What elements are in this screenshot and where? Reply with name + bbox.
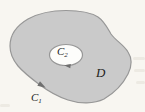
paper-artifact <box>136 81 145 84</box>
region-label: D <box>96 66 105 79</box>
paper-artifact <box>133 57 145 60</box>
inner-curve-label-sub: 2 <box>64 51 68 59</box>
region-diagram <box>0 0 145 112</box>
outer-curve-label-sub: 1 <box>38 97 42 105</box>
inner-curve-label: C2 <box>57 46 68 59</box>
paper-artifact <box>0 104 10 107</box>
figure-canvas: C2 D C1 <box>0 0 145 112</box>
paper-artifact <box>134 69 145 72</box>
outer-curve-label: C1 <box>31 92 42 105</box>
